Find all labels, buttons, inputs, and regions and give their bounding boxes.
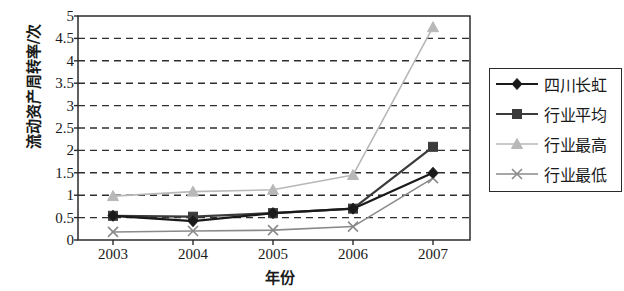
x-axis-title: 年份: [210, 266, 350, 287]
data-point-triangle: [428, 22, 439, 32]
series-0: [108, 167, 438, 226]
legend-marker-square-icon: [494, 104, 540, 124]
series-line: [113, 27, 433, 196]
legend-item-label: 行业最低: [540, 162, 606, 186]
legend-item-label: 四川长虹: [540, 72, 606, 96]
series-line: [113, 147, 433, 217]
legend-marker-diamond-icon: [494, 74, 540, 94]
data-point-square: [429, 142, 438, 151]
legend-item[interactable]: 行业平均: [494, 101, 622, 127]
x-tick-label: 2004: [158, 246, 228, 263]
x-tick-label: 2005: [238, 246, 308, 263]
series-3: [108, 173, 438, 237]
legend-item-label: 行业最高: [540, 132, 606, 156]
chart-figure: 流动资产周转率/次 0 0.5 1 1.5 2 2.5 3 3.5 4 4.5 …: [0, 0, 624, 291]
data-point-diamond: [428, 167, 438, 178]
chart-legend: 四川长虹 行业平均 行业最高 行业最低: [489, 68, 622, 192]
legend-marker-triangle-icon: [494, 134, 540, 154]
legend-item[interactable]: 行业最低: [494, 161, 622, 187]
data-point-triangle: [348, 170, 359, 180]
data-point-square: [513, 110, 522, 119]
x-tick-label: 2007: [398, 246, 468, 263]
legend-item-label: 行业平均: [540, 102, 606, 126]
legend-item[interactable]: 四川长虹: [494, 71, 622, 97]
x-tick-label: 2006: [318, 246, 388, 263]
legend-marker-cross-icon: [494, 164, 540, 184]
x-tick-label: 2003: [78, 246, 148, 263]
data-point-diamond: [512, 79, 522, 90]
series-2: [108, 22, 439, 201]
legend-item[interactable]: 行业最高: [494, 131, 622, 157]
